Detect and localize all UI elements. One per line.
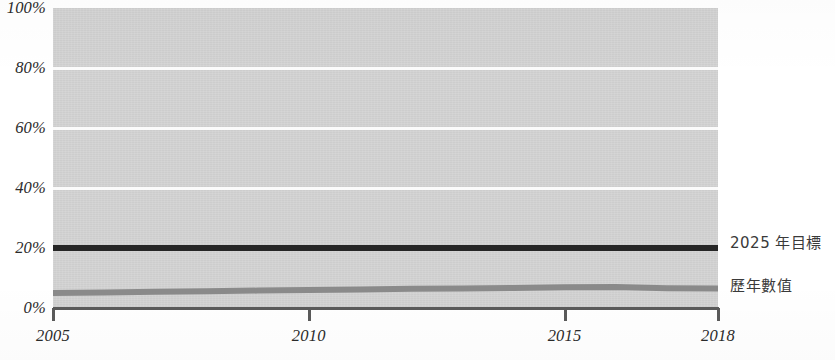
x-axis-tick-mark: [308, 308, 311, 321]
x-axis-tick-label: 2018: [701, 326, 735, 346]
x-axis-line: [53, 307, 719, 310]
x-axis-tick-mark: [52, 308, 55, 321]
x-axis-tick-label: 2005: [36, 326, 70, 346]
y-axis-tick-label: 20%: [0, 238, 46, 258]
y-axis-tick-label: 60%: [0, 118, 46, 138]
x-axis-tick-mark: [564, 308, 567, 321]
y-axis-tick-label: 80%: [0, 58, 46, 78]
y-axis-tick-label: 100%: [0, 0, 46, 18]
series-line-historical: [53, 287, 718, 293]
y-axis-tick-label: 0%: [0, 298, 46, 318]
series-label-historical: 歷年數值: [730, 274, 792, 295]
x-axis-tick-label: 2010: [292, 326, 326, 346]
series-label-target: 2025 年目標: [730, 231, 822, 252]
x-axis-tick-mark: [717, 308, 720, 321]
y-axis-tick-label: 40%: [0, 178, 46, 198]
series-group: [53, 8, 718, 308]
x-axis-tick-label: 2015: [548, 326, 582, 346]
chart-container: 100%80%60%40%20%0% 2005201020152018 2025…: [0, 0, 835, 360]
plot-area: [53, 8, 718, 308]
